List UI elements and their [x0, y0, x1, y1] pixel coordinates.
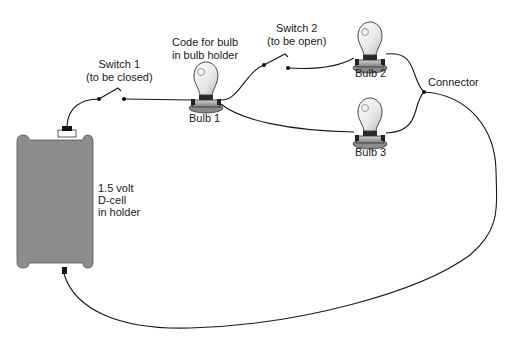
- battery-label: 1.5 volt D-cell in holder: [98, 182, 140, 218]
- code-note-line-2: in bulb holder: [172, 49, 238, 62]
- switch2-note: (to be open): [267, 35, 326, 48]
- switch2-label: Switch 2 (to be open): [267, 22, 326, 48]
- bulb-2: [353, 22, 387, 73]
- switch2-title: Switch 2: [267, 22, 326, 35]
- battery-holder: in holder: [98, 206, 140, 218]
- circuit-diagram: Code for bulb in bulb holder Switch 1 (t…: [0, 0, 513, 340]
- battery: [17, 126, 93, 274]
- connector-label: Connector: [428, 76, 479, 89]
- bulb3-label: Bulb 3: [355, 146, 386, 159]
- circuit-svg: [0, 0, 513, 340]
- bulb-3: [353, 98, 387, 149]
- battery-type: D-cell: [98, 194, 140, 206]
- switch1-label: Switch 1 (to be closed): [86, 58, 153, 84]
- switch1-note: (to be closed): [86, 71, 153, 84]
- code-note-line-1: Code for bulb: [172, 36, 238, 49]
- battery-voltage: 1.5 volt: [98, 182, 140, 194]
- switch1-title: Switch 1: [86, 58, 153, 71]
- bulb-1: [189, 62, 223, 113]
- bulb1-label: Bulb 1: [189, 112, 220, 125]
- code-note-label: Code for bulb in bulb holder: [172, 36, 238, 62]
- bulb2-label: Bulb 2: [355, 67, 386, 80]
